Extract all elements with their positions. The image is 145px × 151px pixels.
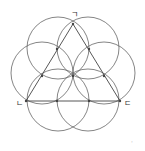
point-5 <box>103 75 105 77</box>
point-6 <box>25 100 27 102</box>
point-8 <box>88 100 90 102</box>
point-0 <box>72 23 74 25</box>
point-7 <box>56 100 58 102</box>
points-group <box>25 23 121 102</box>
point-3 <box>41 75 43 77</box>
label-bottom-left: ㄴ <box>16 100 23 108</box>
label-bottom-right: ㄷ <box>124 100 131 108</box>
point-1 <box>56 48 58 50</box>
point-2 <box>88 48 90 50</box>
corner-mark: · <box>131 139 133 145</box>
label-top: ㄱ <box>71 11 78 19</box>
point-9 <box>119 100 121 102</box>
circles-group <box>11 17 135 131</box>
triangle <box>26 24 120 101</box>
point-4 <box>72 75 74 77</box>
geometry-diagram <box>0 0 145 151</box>
